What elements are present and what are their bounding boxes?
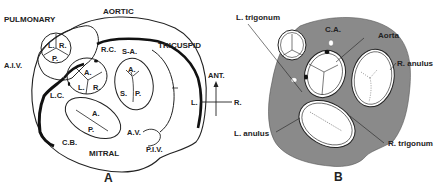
label-aiv: A.I.V. bbox=[4, 61, 22, 70]
cusp-tric-a: A. bbox=[128, 65, 136, 74]
cusp-tric-s: S. bbox=[120, 89, 127, 98]
label-cb: C.B. bbox=[62, 138, 77, 147]
left-coronary-artery bbox=[39, 78, 64, 146]
label-right: R. bbox=[234, 98, 242, 107]
cusp-mitral-a: A. bbox=[92, 109, 100, 118]
label-aortic: AORTIC bbox=[103, 7, 134, 16]
caption-b: B bbox=[334, 170, 343, 184]
label-l-anulus: L. anulus bbox=[234, 129, 270, 138]
label-tricuspid: TRICUSPID bbox=[158, 41, 201, 50]
cusp-pulm-l: L. bbox=[48, 41, 55, 50]
label-r-trigonum: R. trigonum bbox=[388, 139, 433, 148]
arrow-up-icon bbox=[214, 81, 219, 87]
cusp-mitral-p: P. bbox=[88, 125, 94, 134]
cusp-aortic-l: L. bbox=[78, 83, 85, 92]
label-mitral: MITRAL bbox=[89, 149, 119, 158]
tricuspid-outer-ring bbox=[152, 50, 174, 132]
label-rc: R.C. bbox=[101, 45, 116, 54]
cusp-aortic-r: R. bbox=[93, 83, 101, 92]
pulmonary-valve-b bbox=[278, 30, 306, 60]
label-sa: S-A. bbox=[122, 47, 137, 56]
label-ant: ANT. bbox=[208, 71, 225, 80]
caption-a: A bbox=[104, 171, 113, 185]
label-piv: P.I.V. bbox=[146, 145, 163, 154]
heart-valves-diagram: PULMONARY AORTIC TRICUSPID MITRAL A.I.V.… bbox=[0, 0, 447, 187]
av-node-outline bbox=[143, 129, 160, 146]
label-l-trigonum: L. trigonum bbox=[236, 13, 280, 22]
label-lc: L.C. bbox=[50, 91, 64, 100]
panel-a: PULMONARY AORTIC TRICUSPID MITRAL A.I.V.… bbox=[4, 7, 206, 185]
cusp-tric-p: P. bbox=[135, 89, 141, 98]
label-r-anulus: R. anulus bbox=[397, 59, 434, 68]
cusp-pulm-p: P. bbox=[52, 54, 58, 63]
label-ca: C.A. bbox=[325, 25, 341, 34]
label-av: A.V. bbox=[127, 128, 141, 137]
cusp-aortic-a: A. bbox=[84, 68, 92, 77]
label-pulmonary: PULMONARY bbox=[4, 15, 56, 24]
label-left: L. bbox=[191, 98, 198, 107]
panel-b: L. trigonum C.A. Aorta R. anulus L. anul… bbox=[234, 13, 434, 184]
label-aorta: Aorta bbox=[378, 31, 399, 40]
tricuspid-valve bbox=[111, 55, 157, 113]
cusp-pulm-r: R. bbox=[59, 41, 67, 50]
